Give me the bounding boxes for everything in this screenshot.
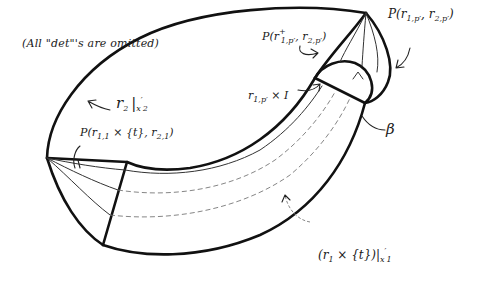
label-p-top-mid: P(r+1,p′, r2,p′) xyxy=(262,28,326,45)
r2-subscript: 2 xyxy=(123,104,128,113)
p-sup: + xyxy=(279,27,286,36)
p-mid: , r xyxy=(421,7,434,21)
tube-line-2 xyxy=(118,92,335,193)
p-mid: × {t}, r xyxy=(110,126,157,139)
p-close: ) xyxy=(322,30,326,43)
arrow-p-top-mid xyxy=(300,46,318,58)
p-sub1: 1,p′ xyxy=(281,36,296,45)
r-open: (r xyxy=(318,248,328,262)
tube-left-edge xyxy=(103,162,127,245)
p-close: ) xyxy=(169,126,173,139)
times-I: × I xyxy=(268,89,289,102)
label-p-top-right: P(r1,p′, r2,p′) xyxy=(388,8,454,23)
apex-fan-line-2 xyxy=(362,13,366,66)
label-p-left: P(r1,1 × {t}, r2,1) xyxy=(80,127,174,141)
p-sub2: 2,p′ xyxy=(434,14,449,23)
arrow-r2 xyxy=(88,100,110,110)
p-text: P(r xyxy=(388,7,407,21)
restriction-var: x xyxy=(380,255,385,264)
p-close: ) xyxy=(449,7,454,21)
p-text: P(r xyxy=(80,126,97,139)
p-sub1: 1,p′ xyxy=(407,14,422,23)
restriction-sub: 2 xyxy=(143,104,148,113)
restriction-sub: 1 xyxy=(386,255,391,264)
arrow-p-left xyxy=(74,146,80,168)
restriction-prime: ′ xyxy=(385,246,387,255)
arrow-p-top-right xyxy=(396,48,410,68)
cap-base xyxy=(315,78,365,103)
restriction-prime: ′ xyxy=(141,95,143,104)
p-sub2: 2,p′ xyxy=(308,36,323,45)
caret-mark xyxy=(353,72,363,79)
apex-fan-line-1 xyxy=(340,13,366,62)
p-sub2: 2,1 xyxy=(157,132,170,141)
label-beta: β xyxy=(386,122,395,137)
restriction-var: x xyxy=(136,104,141,113)
p-text: P(r xyxy=(262,30,279,43)
pointer-beta xyxy=(362,116,385,130)
label-r1p-times-I: r1,p′ × I xyxy=(248,90,288,104)
r-sub: 1,p′ xyxy=(253,95,268,104)
times-t: × {t}) xyxy=(334,248,376,262)
p-sub1: 1,1 xyxy=(97,132,110,141)
label-r1-times-t: (r1 × {t})|x′1 xyxy=(318,247,391,264)
label-r2-restricted: r2|x′2 xyxy=(116,96,148,113)
teardrop-left-edge xyxy=(315,13,366,78)
p-mid: , r xyxy=(295,30,307,43)
omitted-det-note: (All "det"'s are omitted) xyxy=(22,38,159,49)
